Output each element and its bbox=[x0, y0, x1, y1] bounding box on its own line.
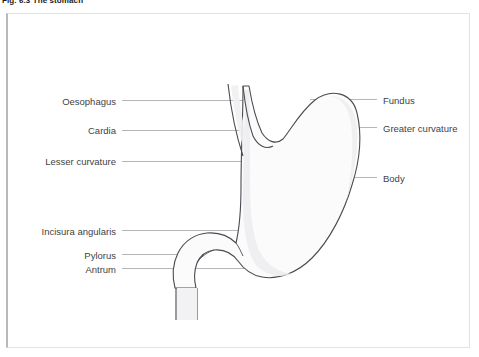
stomach-diagram bbox=[0, 0, 479, 357]
duodenum-shading bbox=[177, 288, 197, 320]
label-oesophagus: Oesophagus bbox=[0, 96, 116, 107]
label-antrum: Antrum bbox=[0, 264, 116, 275]
label-lesser-curvature: Lesser curvature bbox=[0, 156, 116, 167]
label-greater-curvature: Greater curvature bbox=[383, 123, 457, 134]
label-body: Body bbox=[383, 173, 405, 184]
label-fundus: Fundus bbox=[383, 95, 415, 106]
label-pylorus: Pylorus bbox=[0, 250, 116, 261]
label-incisura-angularis: Incisura angularis bbox=[0, 226, 116, 237]
label-cardia: Cardia bbox=[0, 125, 116, 136]
